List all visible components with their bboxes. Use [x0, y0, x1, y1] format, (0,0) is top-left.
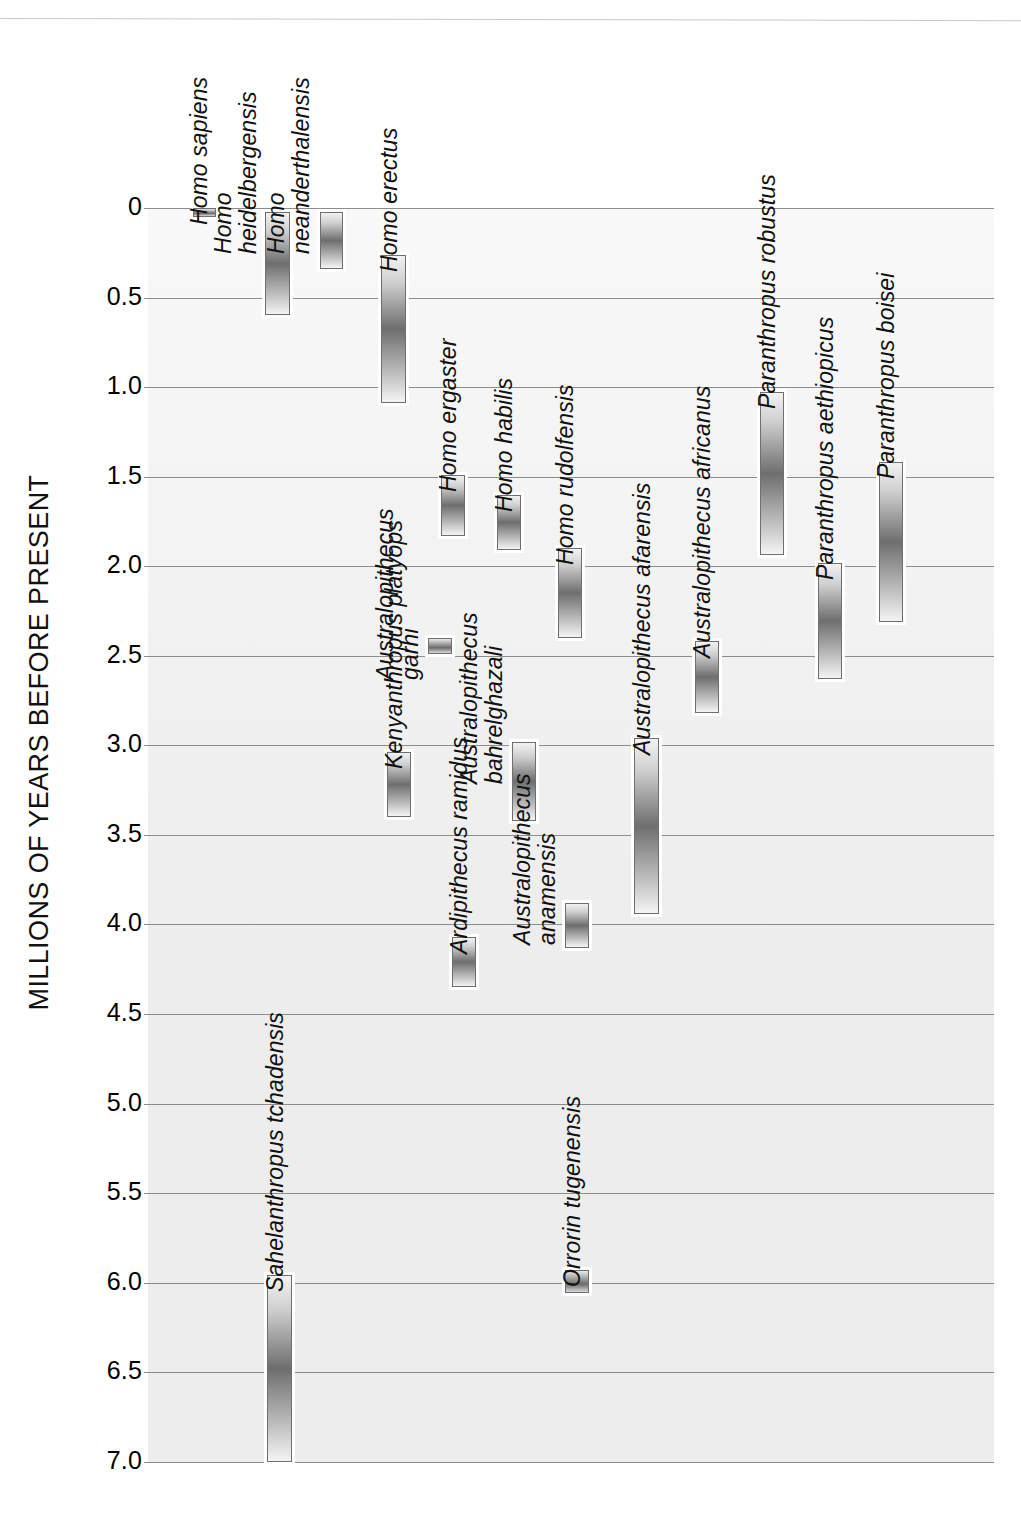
- species-label-line: Homo habilis: [492, 377, 517, 511]
- species-label: Orrorin tugenensis: [560, 1096, 585, 1287]
- y-axis-tick-dash: [144, 1014, 160, 1015]
- y-axis-tick-label: 6.5: [84, 1358, 142, 1383]
- species-label: Australopithecus afarensis: [630, 483, 655, 755]
- species-range-bar: [634, 738, 659, 914]
- y-axis-tick-label: 0.5: [84, 284, 142, 309]
- y-axis-tick-dash: [144, 1104, 160, 1105]
- y-axis-tick-dash: [144, 387, 160, 388]
- y-axis-tick-label: 5.0: [84, 1090, 142, 1115]
- species-range-bar: [879, 462, 903, 621]
- species-label-line: Homo ergaster: [436, 338, 461, 491]
- species-label-line: Paranthropus robustus: [755, 175, 780, 410]
- y-axis-tick-dash: [144, 298, 160, 299]
- species-label-line: Sahelanthropus tchadensis: [263, 1012, 288, 1292]
- species-label-line: Paranthropus boisei: [874, 273, 899, 479]
- y-axis-tick-label: 4.5: [84, 1000, 142, 1025]
- y-axis-tick-dash: [144, 745, 160, 746]
- species-range-bar: [320, 212, 343, 269]
- species-label-line: Australopithecus: [373, 508, 398, 680]
- y-axis-tick-label: 3.0: [84, 731, 142, 756]
- species-label-line: Orrorin tugenensis: [560, 1096, 585, 1287]
- species-label: Homo erectus: [377, 127, 402, 271]
- y-axis-tick-label: 1.0: [84, 373, 142, 398]
- species-label: Paranthropus robustus: [755, 175, 780, 410]
- species-label-line: Australopithecus afarensis: [630, 483, 655, 755]
- species-label: Paranthropus aethiopicus: [813, 316, 838, 579]
- species-label-line: garhi: [398, 508, 423, 680]
- y-axis-tick-dash: [144, 566, 160, 567]
- y-axis-tick-label: 6.0: [84, 1269, 142, 1294]
- y-axis-tick-label: 4.0: [84, 910, 142, 935]
- y-axis-tick-dash: [144, 477, 160, 478]
- species-label: Australopithecusanamensis: [510, 773, 560, 945]
- y-axis-tick-label: 3.5: [84, 821, 142, 846]
- species-label-line: bahrelghazali: [482, 612, 507, 784]
- species-label-line: Australopithecus: [457, 612, 482, 784]
- y-axis-tick-dash: [144, 656, 160, 657]
- y-axis-title: MILLIONS OF YEARS BEFORE PRESENT: [24, 541, 55, 1011]
- species-label-line: anamensis: [535, 773, 560, 945]
- y-axis-tick-label: 1.5: [84, 463, 142, 488]
- species-label: Homo habilis: [492, 377, 517, 511]
- species-range-bar: [267, 1275, 292, 1461]
- y-axis-tick-dash: [144, 835, 160, 836]
- species-range-bar: [381, 255, 406, 404]
- gridline: [148, 656, 994, 657]
- y-axis-tick-dash: [144, 208, 160, 209]
- species-label-line: heidelbergensis: [236, 91, 261, 254]
- species-label-line: Homo erectus: [377, 127, 402, 271]
- species-label-line: Paranthropus aethiopicus: [813, 316, 838, 579]
- species-label: Australopithecusbahrelghazali: [457, 612, 507, 784]
- species-label: Australopithecusgarhi: [373, 508, 423, 680]
- species-range-bar: [565, 903, 589, 948]
- species-label-line: Homo: [264, 77, 289, 254]
- species-label-line: Homo sapiens: [187, 77, 212, 225]
- species-label-line: Homo rudolfensis: [553, 385, 578, 566]
- y-axis-tick-dash: [144, 1283, 160, 1284]
- species-label: Homoheidelbergensis: [211, 91, 261, 254]
- species-label: Homo ergaster: [436, 338, 461, 491]
- hominin-timeline-figure: 00.51.01.52.02.53.03.54.04.55.05.56.06.5…: [0, 0, 1021, 1520]
- species-label: Australopithecus africanus: [690, 386, 715, 658]
- y-axis-tick-label: 0: [84, 194, 142, 219]
- species-label: Homo rudolfensis: [553, 385, 578, 566]
- species-label-line: Australopithecus africanus: [690, 386, 715, 658]
- species-label: Homoneanderthalensis: [264, 77, 314, 254]
- y-axis-tick-label: 2.0: [84, 552, 142, 577]
- species-label-line: Homo: [211, 91, 236, 254]
- top-hairline-rule: [0, 18, 1021, 21]
- gridline: [148, 745, 994, 746]
- gridline: [148, 1462, 994, 1463]
- species-label: Paranthropus boisei: [874, 273, 899, 479]
- y-axis-tick-label: 7.0: [84, 1448, 142, 1473]
- species-label: Sahelanthropus tchadensis: [263, 1012, 288, 1292]
- y-axis-tick-dash: [144, 924, 160, 925]
- species-label-line: Australopithecus: [510, 773, 535, 945]
- y-axis-tick-label: 2.5: [84, 642, 142, 667]
- y-axis-tick-dash: [144, 1462, 160, 1463]
- species-range-bar: [428, 638, 452, 654]
- y-axis-tick-dash: [144, 1193, 160, 1194]
- species-range-bar: [760, 392, 784, 555]
- species-range-bar: [818, 563, 842, 679]
- y-axis-tick-dash: [144, 1372, 160, 1373]
- gridline: [148, 835, 994, 836]
- species-label-line: neanderthalensis: [289, 77, 314, 254]
- y-axis-tick-label: 5.5: [84, 1179, 142, 1204]
- species-label: Homo sapiens: [187, 77, 212, 225]
